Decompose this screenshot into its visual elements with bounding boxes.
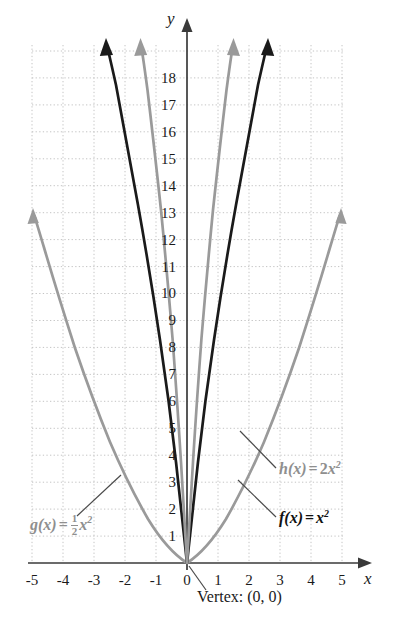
leader-h [240, 431, 276, 468]
x-tick-neg4: -4 [57, 573, 70, 588]
curve-label-h-exponent: 2 [336, 459, 341, 470]
y-tick-9: 9 [148, 313, 176, 328]
x-tick-4: 4 [307, 573, 315, 588]
x-tick-3: 3 [276, 573, 284, 588]
y-tick-6: 6 [148, 394, 176, 409]
curve-label-g: g(x)=12x2 [30, 513, 92, 537]
x-axis [28, 558, 372, 569]
curve-label-g-exponent: 2 [87, 514, 92, 525]
y-tick-2: 2 [148, 502, 176, 517]
y-tick-17: 17 [142, 98, 176, 113]
y-axis-label: y [167, 10, 175, 27]
y-tick-14: 14 [142, 179, 176, 194]
curve-label-f-eq: = [303, 509, 316, 526]
x-tick-neg1: -1 [150, 573, 163, 588]
curve-label-g-arg: (x) [38, 516, 57, 533]
y-tick-15: 15 [142, 152, 176, 167]
y-tick-16: 16 [142, 125, 176, 140]
leader-g [77, 475, 121, 516]
quadratic-functions-figure: 1 2 3 4 5 6 7 8 9 10 11 12 13 14 15 16 1… [0, 0, 399, 626]
y-tick-4: 4 [148, 448, 176, 463]
y-tick-11: 11 [142, 260, 176, 275]
x-tick-5: 5 [338, 573, 346, 588]
curve-h-arrow-left [134, 38, 147, 56]
x-axis-arrow [358, 558, 372, 569]
curve-h-arrow-right [227, 38, 240, 56]
y-tick-10: 10 [142, 286, 176, 301]
curve-label-g-fraction: 12 [71, 513, 79, 537]
vertex-annotation: Vertex: (0, 0) [197, 589, 282, 605]
x-axis-label: x [364, 570, 372, 587]
x-tick-2: 2 [245, 573, 253, 588]
curve-f-arrow-right [261, 38, 274, 56]
leader-vertex [189, 566, 206, 590]
y-tick-1: 1 [148, 529, 176, 544]
curve-label-h-fn: h [279, 460, 288, 477]
curve-label-g-numerator: 1 [71, 513, 79, 526]
y-tick-8: 8 [148, 340, 176, 355]
y-tick-5: 5 [148, 421, 176, 436]
curve-label-f-var: x [316, 509, 324, 526]
x-tick-1: 1 [214, 573, 222, 588]
curve-label-h-coefficient: 2 [320, 460, 328, 477]
x-tick-neg3: -3 [88, 573, 101, 588]
curve-label-f: f(x)=x2 [279, 509, 329, 526]
curve-g-arrow-left [28, 208, 39, 224]
curve-label-h-var: x [328, 460, 336, 477]
grid-lines [32, 45, 345, 563]
curve-f-arrow-left [100, 38, 113, 56]
y-axis-arrow [182, 18, 193, 32]
curve-label-g-eq: = [57, 516, 70, 533]
y-tick-7: 7 [148, 367, 176, 382]
x-tick-neg2: -2 [119, 573, 132, 588]
y-tick-18: 18 [142, 71, 176, 86]
y-tick-3: 3 [148, 475, 176, 490]
leader-f [238, 480, 276, 517]
curve-label-g-fn: g [30, 516, 38, 533]
curve-label-h: h(x)=2x2 [279, 460, 341, 477]
curve-label-g-denominator: 2 [71, 526, 79, 538]
curve-label-h-arg: (x) [288, 460, 307, 477]
y-tick-12: 12 [142, 233, 176, 248]
curve-label-f-exponent: 2 [324, 508, 329, 519]
y-tick-13: 13 [142, 206, 176, 221]
curve-label-f-arg: (x) [284, 509, 303, 526]
curve-label-h-eq: = [307, 460, 320, 477]
x-tick-0: 0 [183, 573, 191, 588]
x-tick-neg5: -5 [26, 573, 39, 588]
curve-g-arrow-right [335, 208, 346, 224]
